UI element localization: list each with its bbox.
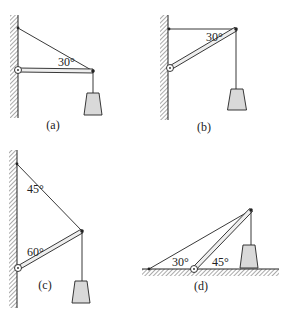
panel-b: 30°(b): [160, 15, 247, 134]
panel-caption: (b): [197, 120, 211, 134]
rod: [18, 68, 93, 73]
angle-label: 30°: [58, 55, 75, 69]
figure-four-panel-diagrams: 30°(a)30°(b)45°60°(c)30°45°(d) (a) (b) (…: [0, 0, 289, 318]
rod: [169, 27, 237, 69]
rope-anchor-point: [16, 163, 19, 166]
hinge-center: [17, 267, 19, 269]
hinge-center: [193, 268, 195, 270]
panel-caption: (d): [194, 279, 208, 293]
panel-caption: (a): [46, 118, 59, 132]
rope: [17, 164, 82, 231]
rope-anchor-point: [17, 27, 20, 30]
panel-c: 45°60°(c): [9, 150, 90, 308]
ground-hatch: [142, 269, 279, 276]
angle-label: 30°: [172, 255, 189, 269]
angle-label: 30°: [206, 30, 223, 44]
angle-label: 45°: [27, 182, 44, 196]
hanging-weight: [228, 89, 247, 110]
hanging-weight: [84, 93, 102, 115]
hinge-center: [169, 67, 171, 69]
wall-hatch: [9, 150, 17, 308]
rope: [18, 28, 93, 71]
hanging-weight: [72, 281, 90, 303]
hanging-weight: [240, 245, 258, 268]
rope-anchor-point: [148, 268, 151, 271]
panel-caption: (c): [38, 278, 51, 292]
rope-anchor-point: [168, 28, 171, 31]
panel-d: 30°45°(d): [142, 208, 279, 293]
angle-label: 45°: [212, 255, 229, 269]
angle-label: 60°: [27, 245, 44, 259]
hinge-center: [17, 69, 19, 71]
panel-a: 30°(a): [10, 15, 102, 132]
diagram-canvas: 30°(a)30°(b)45°60°(c)30°45°(d): [0, 0, 289, 318]
